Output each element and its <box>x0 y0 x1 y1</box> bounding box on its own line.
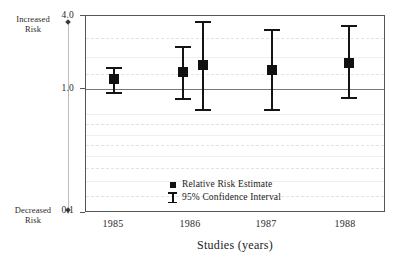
decreased-risk-line-2: Risk <box>2 215 64 225</box>
errorbar-1987-lower-cap <box>264 109 280 111</box>
gridline-minor-5 <box>86 124 384 126</box>
gridline-minor-4 <box>86 114 384 115</box>
errorbar-1986a-lower-cap <box>175 98 191 100</box>
y-tick-label-4: 4.0 <box>40 10 74 20</box>
gridline-minor-6 <box>86 135 384 136</box>
increased-risk-line-2: Risk <box>2 24 64 34</box>
legend-label-confidence-interval: 95% Confidence Interval <box>179 191 281 204</box>
legend-item-relative-risk-estimate: Relative Risk Estimate <box>166 178 281 191</box>
errorbar-1988-lower-cap <box>341 97 357 99</box>
y-tick-label-1: 1.0 <box>40 83 74 93</box>
x-tick-label-1985: 1985 <box>83 218 143 229</box>
gridline-minor-1 <box>86 38 384 40</box>
y-tick-label-0point1: 0.1 <box>40 205 74 215</box>
increased-risk-arrow-icon <box>65 19 71 25</box>
axis-direction-bar <box>68 22 69 214</box>
errorbar-1988-marker <box>344 58 354 68</box>
x-axis-title: Studies (years) <box>85 238 385 253</box>
x-tick-label-1986: 1986 <box>160 218 220 229</box>
errorbar-1986b-lower-cap <box>195 109 211 111</box>
errorbar-1986b-marker <box>198 60 208 70</box>
chart-legend: Relative Risk Estimate 95% Confidence In… <box>166 178 281 204</box>
i-bar-icon <box>166 192 179 203</box>
legend-label-relative-risk-estimate: Relative Risk Estimate <box>179 178 272 191</box>
errorbar-1987-marker <box>267 65 277 75</box>
gridline-minor-2 <box>86 57 384 58</box>
x-tick-label-1988: 1988 <box>315 218 375 229</box>
gridline-minor-9 <box>86 168 384 170</box>
relative-risk-forest-chart: Increased Risk Decreased Risk 4.0 1.0 0.… <box>0 0 396 266</box>
legend-item-confidence-interval: 95% Confidence Interval <box>166 191 281 204</box>
x-tick-label-1987: 1987 <box>236 218 296 229</box>
errorbar-1986a-marker <box>178 67 188 77</box>
gridline-minor-8 <box>86 156 384 157</box>
errorbar-1985-lower-cap <box>106 92 122 94</box>
filled-square-icon <box>166 182 179 188</box>
gridline-minor-3 <box>86 74 384 76</box>
gridline-minor-7 <box>86 145 384 147</box>
y-tick-mark-0point1 <box>80 212 85 213</box>
errorbar-1985-marker <box>109 74 119 84</box>
reference-line-rr-1 <box>86 89 384 90</box>
